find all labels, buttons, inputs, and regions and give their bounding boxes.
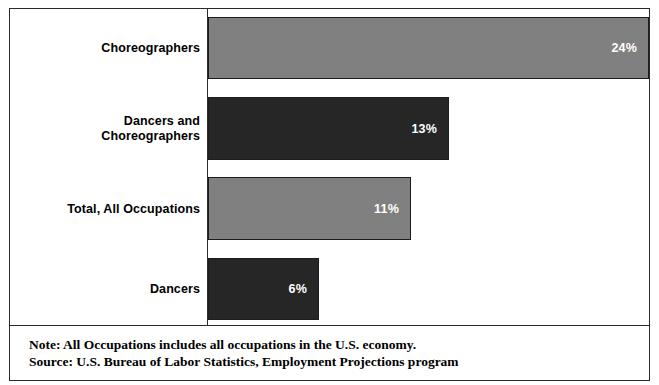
bar-value-label: 6% <box>289 282 318 296</box>
notes-block: Note: All Occupations includes all occup… <box>29 336 629 370</box>
notes-divider <box>9 325 650 326</box>
note-text: Note: All Occupations includes all occup… <box>29 336 629 353</box>
bar-value-label: 11% <box>374 202 410 216</box>
bar-row: Dancers and Choreographers 13% <box>9 97 650 160</box>
category-axis-line <box>207 9 208 325</box>
bar-category-label: Total, All Occupations <box>0 201 200 216</box>
bar-value-label: 13% <box>411 122 448 136</box>
bar-category-label: Dancers and Choreographers <box>0 114 200 144</box>
bar-category-label: Choreographers <box>0 41 200 56</box>
bar-row: Choreographers 24% <box>9 17 650 79</box>
bar-rect-dancers-and-choreographers: 13% <box>208 97 449 160</box>
bar-rect-dancers: 6% <box>208 258 319 320</box>
bar-row: Dancers 6% <box>9 258 650 320</box>
source-text: Source: U.S. Bureau of Labor Statistics,… <box>29 353 629 370</box>
plot-area: Choreographers 24% Dancers and Choreogra… <box>9 8 650 325</box>
bar-rect-total-all-occupations: 11% <box>208 177 411 240</box>
bar-value-label: 24% <box>611 41 648 55</box>
bar-rect-choreographers: 24% <box>208 17 649 79</box>
bar-row: Total, All Occupations 11% <box>9 177 650 240</box>
bar-chart-figure: Choreographers 24% Dancers and Choreogra… <box>0 0 659 385</box>
bar-category-label: Dancers <box>0 282 200 297</box>
